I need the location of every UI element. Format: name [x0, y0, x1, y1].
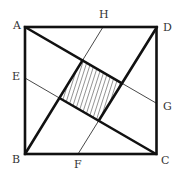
segment-F-to-inner-bottom	[78, 121, 99, 154]
thin-lines	[25, 27, 156, 154]
label-G: G	[163, 100, 172, 113]
label-E: E	[12, 70, 20, 83]
label-A: A	[12, 19, 22, 32]
segment-E-to-inner-left	[25, 78, 59, 98]
outer-square	[25, 27, 157, 154]
label-C: C	[161, 154, 169, 167]
label-D: D	[163, 21, 172, 34]
label-B: B	[12, 153, 20, 166]
label-H: H	[99, 8, 109, 21]
segment-inner-right-to-G	[122, 83, 156, 103]
inner-square-hatching	[30, 40, 146, 140]
segment-inner-top-to-H	[83, 27, 104, 60]
label-F: F	[74, 158, 82, 171]
geometry-diagram: A D H E G B F C	[0, 0, 183, 174]
